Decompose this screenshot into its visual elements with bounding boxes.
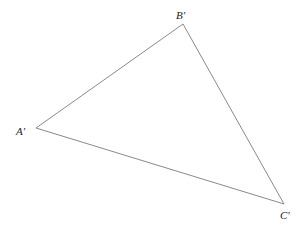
vertex-label-a: A′ <box>15 125 26 137</box>
vertex-label-b: B′ <box>176 9 186 21</box>
triangle-diagram: A′ B′ C′ <box>0 0 303 233</box>
triangle-outline <box>36 24 284 204</box>
vertex-label-c: C′ <box>280 209 290 221</box>
